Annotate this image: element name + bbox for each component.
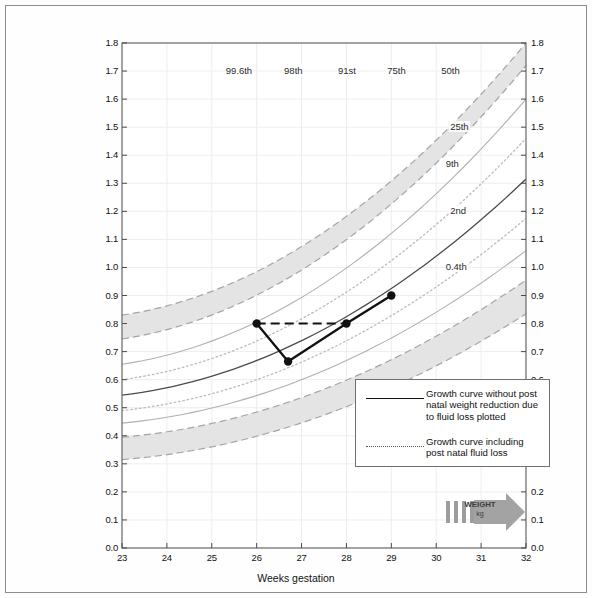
y-tick-label: 0.7 bbox=[531, 346, 561, 357]
y-tick-label: 1.1 bbox=[531, 233, 561, 244]
y-tick-label: 1.0 bbox=[88, 261, 118, 272]
y-tick-label: 1.6 bbox=[88, 93, 118, 104]
y-tick-label: 1.7 bbox=[531, 65, 561, 76]
y-tick-label: 1.1 bbox=[88, 233, 118, 244]
x-tick-label: 32 bbox=[508, 552, 544, 563]
y-tick-label: 0.1 bbox=[88, 514, 118, 525]
percentile-label-91st: 91st bbox=[337, 65, 357, 76]
y-tick-label: 0.8 bbox=[531, 318, 561, 329]
y-tick-label: 1.3 bbox=[531, 177, 561, 188]
percentile-label-9th: 9th bbox=[445, 158, 460, 169]
y-tick-label: 1.0 bbox=[531, 261, 561, 272]
percentile-label-99-6th: 99.6th bbox=[225, 65, 253, 76]
legend-entry-solid: Growth curve without post natal weight r… bbox=[364, 388, 544, 422]
y-tick-label: 0.2 bbox=[531, 486, 561, 497]
y-tick-label: 0.4 bbox=[88, 430, 118, 441]
x-tick-label: 23 bbox=[104, 552, 140, 563]
y-tick-label: 0.3 bbox=[88, 458, 118, 469]
weight-arrow-title: WEIGHT bbox=[464, 500, 495, 509]
y-tick-label: 1.4 bbox=[88, 149, 118, 160]
legend-entry-dotted: Growth curve including post natal fluid … bbox=[364, 436, 544, 459]
y-tick-label: 0.9 bbox=[88, 290, 118, 301]
y-tick-label: 0.7 bbox=[88, 346, 118, 357]
weight-arrow: WEIGHT kg bbox=[443, 494, 533, 530]
percentile-label-75th: 75th bbox=[386, 65, 407, 76]
y-tick-label: 1.8 bbox=[88, 37, 118, 48]
x-tick-label: 26 bbox=[239, 552, 275, 563]
weight-arrow-label: WEIGHT kg bbox=[457, 501, 503, 518]
y-tick-label: 1.5 bbox=[531, 121, 561, 132]
y-tick-label: 0.5 bbox=[88, 402, 118, 413]
y-tick-label: 0.2 bbox=[88, 486, 118, 497]
y-tick-label: 1.7 bbox=[88, 65, 118, 76]
y-tick-label: 1.2 bbox=[88, 205, 118, 216]
chart-legend: Growth curve without post natal weight r… bbox=[355, 379, 550, 467]
data-point-marker bbox=[252, 319, 260, 327]
legend-dotted-label: Growth curve including post natal fluid … bbox=[426, 436, 544, 459]
data-point-marker bbox=[342, 319, 350, 327]
y-tick-label: 1.4 bbox=[531, 149, 561, 160]
percentile-label-98th: 98th bbox=[283, 65, 304, 76]
x-tick-label: 25 bbox=[194, 552, 230, 563]
percentile-label-0-4th: 0.4th bbox=[445, 261, 468, 272]
weight-arrow-unit: kg bbox=[457, 510, 503, 519]
x-tick-label: 24 bbox=[149, 552, 185, 563]
y-tick-label: 1.6 bbox=[531, 93, 561, 104]
y-tick-label: 0.6 bbox=[88, 374, 118, 385]
x-tick-label: 29 bbox=[373, 552, 409, 563]
y-tick-label: 0.9 bbox=[531, 290, 561, 301]
x-tick-label: 28 bbox=[328, 552, 364, 563]
legend-solid-label: Growth curve without post natal weight r… bbox=[426, 388, 544, 422]
percentile-label-2nd: 2nd bbox=[449, 205, 467, 216]
x-tick-label: 31 bbox=[463, 552, 499, 563]
y-tick-label: 0.8 bbox=[88, 318, 118, 329]
y-tick-label: 1.2 bbox=[531, 205, 561, 216]
y-tick-label: 1.3 bbox=[88, 177, 118, 188]
legend-solid-line-icon bbox=[364, 391, 426, 405]
x-tick-label: 27 bbox=[284, 552, 320, 563]
y-tick-label: 1.8 bbox=[531, 37, 561, 48]
y-tick-label: 0.1 bbox=[531, 514, 561, 525]
percentile-label-25th: 25th bbox=[449, 121, 470, 132]
y-tick-label: 1.5 bbox=[88, 121, 118, 132]
legend-dotted-line-icon bbox=[364, 439, 426, 453]
x-axis-title: Weeks gestation bbox=[0, 572, 592, 584]
data-point-marker bbox=[284, 357, 292, 365]
growth-chart: 1.81.71.61.51.41.31.21.11.00.90.80.70.60… bbox=[0, 0, 592, 598]
x-tick-label: 30 bbox=[418, 552, 454, 563]
percentile-label-50th: 50th bbox=[440, 65, 461, 76]
data-point-marker bbox=[387, 291, 395, 299]
